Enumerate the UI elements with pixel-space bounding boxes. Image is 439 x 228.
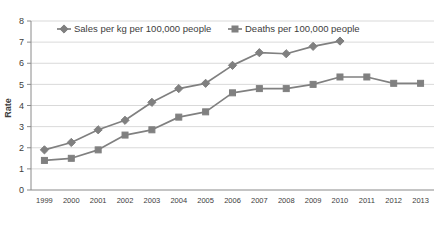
y-tick-label: 2 [19, 143, 24, 153]
data-point-marker [149, 127, 155, 133]
data-point-marker [310, 81, 316, 87]
x-tick-label: 2011 [359, 196, 375, 205]
data-point-marker [283, 86, 289, 92]
data-point-marker [391, 80, 397, 86]
x-tick-label: 2007 [251, 196, 268, 205]
x-tick-label: 2006 [224, 196, 241, 205]
data-point-marker [67, 138, 75, 146]
y-tick-label: 6 [19, 58, 24, 68]
x-tick-label: 2002 [117, 196, 134, 205]
x-tick-label: 2013 [412, 196, 429, 205]
legend-item[interactable]: Deaths per 100,000 people [228, 23, 360, 34]
y-axis-tick-labels: 012345678 [19, 16, 24, 195]
data-point-marker [282, 50, 290, 58]
y-axis-ticks [27, 21, 31, 190]
x-tick-label: 2009 [305, 196, 322, 205]
legend: Sales per kg per 100,000 peopleDeaths pe… [57, 23, 360, 34]
x-tick-label: 2004 [170, 196, 187, 205]
data-point-marker [176, 114, 182, 120]
y-tick-label: 5 [19, 80, 24, 90]
data-point-marker [309, 42, 317, 50]
y-tick-label: 0 [19, 185, 24, 195]
data-point-marker [68, 155, 74, 161]
y-tick-label: 7 [19, 37, 24, 47]
x-tick-label: 2000 [63, 196, 80, 205]
legend-label: Deaths per 100,000 people [245, 23, 360, 34]
data-point-marker [418, 80, 424, 86]
data-point-marker [60, 25, 68, 33]
x-tick-label: 1999 [36, 196, 53, 205]
x-tick-label: 2008 [278, 196, 295, 205]
x-tick-label: 2003 [144, 196, 161, 205]
series-line [44, 41, 340, 150]
series-1 [40, 37, 344, 154]
legend-label: Sales per kg per 100,000 people [74, 23, 211, 34]
data-point-marker [255, 49, 263, 57]
x-tick-label: 2001 [90, 196, 107, 205]
data-point-marker [122, 132, 128, 138]
data-point-marker [364, 74, 370, 80]
chart-canvas: 012345678 199920002001200220032004200520… [0, 0, 439, 228]
legend-item[interactable]: Sales per kg per 100,000 people [57, 23, 211, 34]
data-point-marker [256, 86, 262, 92]
y-tick-label: 3 [19, 122, 24, 132]
data-point-marker [41, 157, 47, 163]
series-2 [41, 74, 423, 163]
data-point-marker [175, 85, 183, 93]
data-point-marker [40, 146, 48, 154]
data-point-marker [232, 26, 238, 32]
x-tick-label: 2012 [385, 196, 402, 205]
y-tick-label: 8 [19, 16, 24, 26]
series-layer [40, 37, 423, 163]
data-point-marker [337, 74, 343, 80]
data-point-marker [95, 147, 101, 153]
x-tick-label: 2010 [332, 196, 349, 205]
y-axis-title: Rate [3, 98, 13, 118]
data-point-marker [230, 90, 236, 96]
x-tick-label: 2005 [197, 196, 214, 205]
y-tick-label: 1 [19, 164, 24, 174]
line-chart: 012345678 199920002001200220032004200520… [0, 0, 439, 228]
x-axis-tick-labels: 1999200020012002200320042005200620072008… [36, 196, 429, 205]
data-point-marker [203, 109, 209, 115]
y-tick-label: 4 [19, 101, 24, 111]
data-point-marker [336, 37, 344, 45]
